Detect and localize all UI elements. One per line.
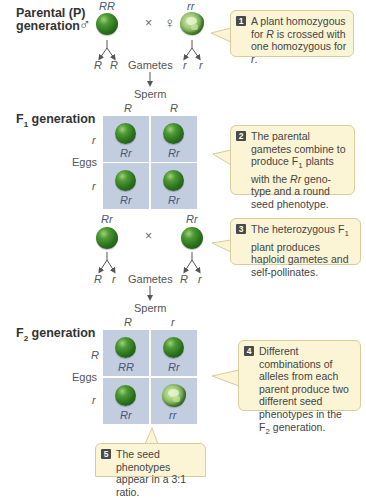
callout-text: The heterozygous F — [251, 223, 344, 235]
f1-right-genotype: Rr — [186, 213, 198, 225]
f2-punnett-square: RR Rr Rr rr — [103, 330, 197, 424]
callout-1: 1 A plant homozygous for R is crossed wi… — [230, 10, 354, 57]
female-genotype: rr — [187, 0, 194, 12]
male-genotype: RR — [99, 0, 115, 12]
round-seed-icon — [163, 123, 184, 144]
f2-egg-allele: r — [92, 394, 96, 406]
callout-4: 4 Different combinations of alleles from… — [238, 340, 361, 411]
cross-symbol: × — [145, 16, 152, 30]
punnett-cell: Rr — [151, 163, 197, 209]
step-number-badge: 2 — [236, 131, 246, 141]
callout-text: The seed phenotypes appear in a 3:1 rati… — [116, 448, 186, 498]
f2-egg-allele: R — [91, 349, 99, 361]
cell-genotype: Rr — [120, 194, 132, 206]
eggs-label: Eggs — [72, 156, 97, 168]
callout-text: . — [255, 53, 258, 65]
round-seed-icon — [115, 337, 136, 358]
punnett-cell: rr — [151, 378, 197, 424]
callout-3: 3 The heterozygous F1 plant produces hap… — [230, 218, 361, 265]
punnett-cell: Rr — [103, 116, 149, 162]
f1-label: F — [16, 112, 24, 126]
parental-generation-label: Parental (P) generation — [16, 7, 85, 33]
round-seed-icon — [163, 170, 184, 191]
round-seed-icon — [96, 227, 118, 249]
gametes-label: Gametes — [128, 59, 173, 71]
cell-genotype: Rr — [120, 409, 132, 421]
callout-2: 2 The parental gametes combine to produc… — [230, 125, 355, 195]
wrinkled-seed-icon — [162, 384, 186, 407]
round-seed-icon — [96, 13, 118, 35]
cell-genotype: Rr — [168, 361, 180, 373]
callout-5: 5 The seed phenotypes appear in a 3:1 ra… — [95, 443, 206, 477]
cell-genotype: Rr — [168, 194, 180, 206]
f1-punnett-square: Rr Rr Rr Rr — [103, 116, 197, 209]
step-number-badge: 3 — [236, 224, 246, 234]
male-gamete-allele: R — [110, 59, 118, 71]
round-seed-icon — [115, 123, 136, 144]
cell-genotype: RR — [118, 361, 134, 373]
male-symbol-icon: ♂ — [79, 16, 91, 34]
sperm-label: Sperm — [134, 88, 166, 100]
step-number-badge: 5 — [101, 449, 111, 459]
callout-text: Different combinations of alleles from e… — [259, 345, 349, 433]
step-number-badge: 4 — [244, 346, 254, 356]
f2-label-rest: generation — [28, 326, 95, 340]
callout-italic: Rr — [290, 173, 301, 185]
eggs-label: Eggs — [72, 371, 97, 383]
f2-sperm-allele: r — [171, 316, 175, 328]
f1-left-genotype: Rr — [101, 213, 113, 225]
female-symbol-icon: ♀ — [164, 14, 175, 31]
male-gamete-allele: R — [94, 59, 102, 71]
cell-genotype: rr — [169, 409, 176, 421]
cell-genotype: Rr — [120, 147, 132, 159]
round-seed-icon — [115, 385, 136, 406]
gamete-allele: R — [180, 273, 188, 285]
f1-egg-allele: r — [92, 134, 96, 146]
female-gamete-allele: r — [199, 59, 203, 71]
f1-egg-allele: r — [92, 180, 96, 192]
gamete-allele: r — [198, 273, 202, 285]
f2-sperm-allele: R — [124, 316, 132, 328]
f1-label-rest: generation — [28, 112, 95, 126]
round-seed-icon — [115, 170, 136, 191]
sperm-label: Sperm — [134, 302, 166, 314]
step-number-badge: 1 — [236, 16, 246, 26]
punnett-cell: Rr — [103, 378, 149, 424]
f1-sperm-allele: R — [170, 102, 178, 114]
punnett-cell: Rr — [103, 163, 149, 209]
cross-symbol: × — [145, 229, 152, 243]
punnett-cell: RR — [103, 330, 149, 376]
round-seed-icon — [163, 337, 184, 358]
gamete-allele: r — [112, 273, 116, 285]
female-gamete-allele: r — [183, 59, 187, 71]
gametes-label: Gametes — [128, 273, 173, 285]
gamete-allele: R — [94, 273, 102, 285]
f1-sperm-allele: R — [124, 102, 132, 114]
callout-text: generation. — [270, 421, 325, 433]
punnett-cell: Rr — [151, 330, 197, 376]
parental-label-line2: generation — [16, 20, 85, 33]
f2-generation-label: F2 generation — [16, 327, 95, 345]
f2-label: F — [16, 326, 24, 340]
cell-genotype: Rr — [168, 147, 180, 159]
callout-sub: 1 — [344, 229, 348, 238]
callout-italic: R — [266, 28, 274, 40]
punnett-cell: Rr — [151, 116, 197, 162]
round-seed-icon — [181, 227, 203, 249]
f1-generation-label: F1 generation — [16, 113, 95, 131]
